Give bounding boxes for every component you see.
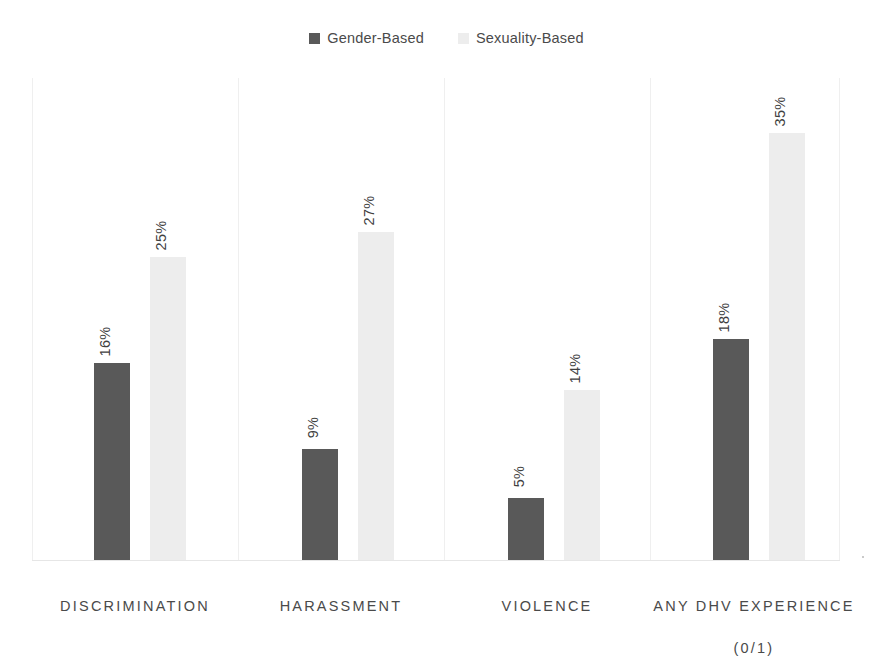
x-axis-line <box>32 560 840 561</box>
category-label-any-dhv-experience: ANY DHV EXPERIENCE (0/1) <box>645 575 863 659</box>
bar-discrimination-gender[interactable]: 16% <box>94 363 130 560</box>
bar-any-dhv-sexuality[interactable]: 35% <box>769 133 805 560</box>
grid-line-right <box>839 78 840 560</box>
bar-violence-gender[interactable]: 5% <box>508 498 544 560</box>
bar-harassment-sexuality[interactable]: 27% <box>358 232 394 560</box>
legend-item-gender-based[interactable]: Gender-Based <box>309 30 424 46</box>
legend-label-sexuality-based: Sexuality-Based <box>476 30 584 46</box>
grid-line-left <box>32 78 33 560</box>
bar-value-violence-gender: 5% <box>512 465 527 487</box>
category-label-any-dhv-line1: ANY DHV EXPERIENCE <box>653 598 854 614</box>
category-label-discrimination-line1: DISCRIMINATION <box>60 598 210 614</box>
category-label-any-dhv-line2: (0/1) <box>734 640 775 656</box>
square-swatch-icon <box>309 33 320 44</box>
chart-legend: Gender-Based Sexuality-Based <box>0 30 893 46</box>
category-label-violence-line1: VIOLENCE <box>502 598 593 614</box>
bar-value-violence-sexuality: 14% <box>568 353 583 383</box>
bar-discrimination-sexuality[interactable]: 25% <box>150 257 186 560</box>
category-label-discrimination: DISCRIMINATION <box>32 575 238 617</box>
grid-line-3 <box>650 78 651 560</box>
bar-value-any-dhv-gender: 18% <box>717 302 732 332</box>
grid-line-1 <box>238 78 239 560</box>
category-label-harassment-line1: HARASSMENT <box>280 598 403 614</box>
legend-label-gender-based: Gender-Based <box>327 30 424 46</box>
plot-area: 16% 25% 9% 27% 5% 14% 18% 35% <box>32 78 840 560</box>
bar-value-harassment-sexuality: 27% <box>362 195 377 225</box>
bar-violence-sexuality[interactable]: 14% <box>564 390 600 560</box>
bar-harassment-gender[interactable]: 9% <box>302 449 338 560</box>
legend-item-sexuality-based[interactable]: Sexuality-Based <box>458 30 584 46</box>
bar-value-discrimination-gender: 16% <box>98 326 113 356</box>
category-label-harassment: HARASSMENT <box>238 575 444 617</box>
bar-any-dhv-gender[interactable]: 18% <box>713 339 749 560</box>
bar-value-any-dhv-sexuality: 35% <box>773 96 788 126</box>
stray-mark <box>862 556 864 558</box>
bar-value-harassment-gender: 9% <box>306 416 321 438</box>
grid-line-2 <box>444 78 445 560</box>
category-label-violence: VIOLENCE <box>444 575 650 617</box>
square-swatch-icon <box>458 33 469 44</box>
bar-value-discrimination-sexuality: 25% <box>154 220 169 250</box>
